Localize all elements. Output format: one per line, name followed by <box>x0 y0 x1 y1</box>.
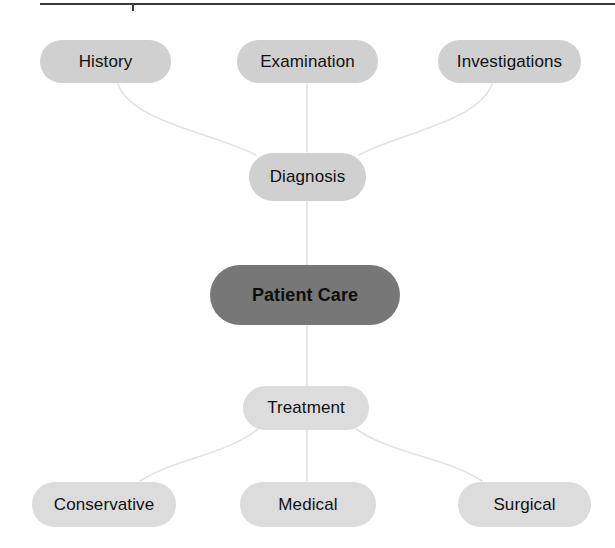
diagram-canvas: History Examination Investigations Diagn… <box>0 0 615 548</box>
node-investigations-label: Investigations <box>457 52 562 72</box>
node-history[interactable]: History <box>40 40 171 83</box>
node-history-label: History <box>79 52 133 72</box>
node-patient-care-label: Patient Care <box>252 285 358 306</box>
edge-treatment-conservative <box>140 429 258 481</box>
node-diagnosis-label: Diagnosis <box>270 167 346 187</box>
node-examination[interactable]: Examination <box>237 40 378 83</box>
node-patient-care[interactable]: Patient Care <box>210 265 400 325</box>
node-treatment-label: Treatment <box>267 398 345 418</box>
node-examination-label: Examination <box>260 52 355 72</box>
edge-history-diagnosis <box>118 84 256 155</box>
edge-treatment-surgical <box>356 429 482 481</box>
node-medical[interactable]: Medical <box>240 482 376 527</box>
node-investigations[interactable]: Investigations <box>438 40 581 83</box>
node-medical-label: Medical <box>278 495 337 515</box>
node-conservative[interactable]: Conservative <box>32 482 176 527</box>
node-surgical[interactable]: Surgical <box>458 482 591 527</box>
edge-investigations-diagnosis <box>359 84 492 155</box>
node-surgical-label: Surgical <box>493 495 555 515</box>
node-conservative-label: Conservative <box>54 495 154 515</box>
node-treatment[interactable]: Treatment <box>243 386 369 430</box>
node-diagnosis[interactable]: Diagnosis <box>249 153 366 201</box>
